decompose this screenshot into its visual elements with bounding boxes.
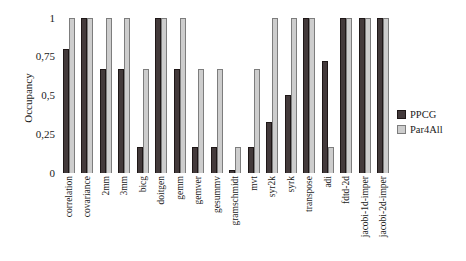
x-label-cell-gemm: gemm: [174, 176, 186, 261]
x-label-3mm: 3mm: [118, 176, 130, 196]
ppcg-legend-label: PPCG: [410, 109, 436, 120]
bar-par4all-correlation: [69, 18, 75, 173]
bar-par4all-gramschmidt: [235, 147, 241, 173]
y-tick-label-0-75: 0,75: [0, 50, 55, 63]
x-label-cell-gramschmidt: gramschmidt: [229, 176, 241, 261]
occupancy-bar-chart: Occupancy 00,250,50,751 correlationcovar…: [0, 0, 466, 261]
bar-par4all-3mm: [124, 18, 130, 173]
x-label-cell-doitgen: doitgen: [155, 176, 167, 261]
x-label-2mm: 2mm: [100, 176, 112, 196]
x-label-cell-3mm: 3mm: [118, 176, 130, 261]
x-label-doitgen: doitgen: [155, 176, 167, 205]
x-label-cell-adi: adi: [322, 176, 334, 261]
bar-group-mvt: [248, 69, 260, 173]
legend-item-par4all: Par4All: [397, 124, 443, 135]
bar-par4all-fdtd-2d: [346, 18, 352, 173]
x-label-cell-jacobi-1d-imper: jacobi-1d-imper: [359, 176, 371, 261]
bar-group-gramschmidt: [229, 147, 241, 173]
y-tick-label-1: 1: [0, 12, 55, 25]
x-label-cell-bicg: bicg: [137, 176, 149, 261]
bar-group-covariance: [81, 18, 93, 173]
plot-area: [63, 18, 389, 173]
ppcg-legend-swatch: [397, 110, 406, 119]
bar-par4all-bicg: [143, 69, 149, 173]
bar-par4all-doitgen: [161, 18, 167, 173]
x-axis-labels: correlationcovariance2mm3mmbicgdoitgenge…: [63, 176, 389, 261]
bar-par4all-gesummv: [217, 69, 223, 173]
x-label-bicg: bicg: [137, 176, 149, 192]
bar-par4all-transpose: [309, 18, 315, 173]
bar-group-correlation: [63, 18, 75, 173]
x-label-cell-syr2k: syr2k: [266, 176, 278, 261]
x-label-cell-syrk: syrk: [285, 176, 297, 261]
y-tick-label-0: 0: [0, 167, 55, 180]
bar-par4all-gemver: [198, 69, 204, 173]
bar-group-gemver: [192, 69, 204, 173]
bar-group-syr2k: [266, 18, 278, 173]
legend: PPCG Par4All: [397, 109, 443, 139]
bar-group-jacobi-1d-imper: [359, 18, 371, 173]
bar-par4all-covariance: [87, 18, 93, 173]
x-label-correlation: correlation: [63, 176, 75, 217]
bar-group-fdtd-2d: [340, 18, 352, 173]
bar-par4all-jacobi-2d-imper: [383, 18, 389, 173]
x-label-adi: adi: [322, 176, 334, 188]
bar-group-3mm: [118, 18, 130, 173]
x-label-cell-transpose: transpose: [303, 176, 315, 261]
x-label-cell-correlation: correlation: [63, 176, 75, 261]
bar-par4all-syrk: [291, 18, 297, 173]
bar-group-adi: [322, 61, 334, 173]
bar-par4all-jacobi-1d-imper: [365, 18, 371, 173]
x-label-cell-gesummv: gesummv: [211, 176, 223, 261]
bar-group-doitgen: [155, 18, 167, 173]
x-label-gemver: gemver: [192, 176, 204, 205]
x-label-cell-fdtd-2d: fdtd-2d: [340, 176, 352, 261]
x-label-jacobi-2d-imper: jacobi-2d-imper: [377, 176, 389, 237]
bar-group-bicg: [137, 69, 149, 173]
x-label-fdtd-2d: fdtd-2d: [340, 176, 352, 204]
bar-par4all-adi: [328, 147, 334, 173]
par4all-legend-swatch: [397, 125, 406, 134]
y-tick-label-0-5: 0,5: [0, 89, 55, 102]
bar-par4all-gemm: [180, 18, 186, 173]
x-label-mvt: mvt: [248, 176, 260, 191]
x-label-cell-mvt: mvt: [248, 176, 260, 261]
x-label-gramschmidt: gramschmidt: [229, 176, 241, 226]
bar-group-syrk: [285, 18, 297, 173]
bar-par4all-mvt: [254, 69, 260, 173]
par4all-legend-label: Par4All: [410, 124, 443, 135]
x-label-covariance: covariance: [81, 176, 93, 217]
bar-group-gesummv: [211, 69, 223, 173]
x-label-gemm: gemm: [174, 176, 186, 200]
x-label-jacobi-1d-imper: jacobi-1d-imper: [359, 176, 371, 237]
y-tick-label-0-25: 0,25: [0, 128, 55, 141]
bar-group-jacobi-2d-imper: [377, 18, 389, 173]
legend-item-ppcg: PPCG: [397, 109, 443, 120]
x-label-transpose: transpose: [303, 176, 315, 212]
x-label-syr2k: syr2k: [266, 176, 278, 197]
bar-group-gemm: [174, 18, 186, 173]
x-label-cell-2mm: 2mm: [100, 176, 112, 261]
x-label-gesummv: gesummv: [211, 176, 223, 213]
bar-par4all-syr2k: [272, 18, 278, 173]
x-label-cell-jacobi-2d-imper: jacobi-2d-imper: [377, 176, 389, 261]
x-label-syrk: syrk: [285, 176, 297, 192]
bar-par4all-2mm: [106, 18, 112, 173]
x-label-cell-covariance: covariance: [81, 176, 93, 261]
bar-group-transpose: [303, 18, 315, 173]
x-label-cell-gemver: gemver: [192, 176, 204, 261]
bar-group-2mm: [100, 18, 112, 173]
